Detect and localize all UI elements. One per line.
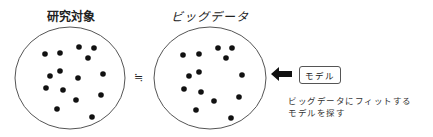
caption: ビッグデータにフィットする モデルを探す — [288, 95, 412, 119]
approximately-equal-symbol: ≒ — [134, 71, 143, 84]
arrow-left-icon — [271, 67, 292, 81]
data-point — [180, 52, 186, 58]
data-point — [198, 89, 204, 95]
data-point — [91, 45, 97, 51]
data-point — [60, 87, 66, 93]
research-target-circle — [15, 27, 125, 129]
data-point — [57, 50, 63, 56]
data-point — [215, 45, 221, 51]
data-point — [85, 55, 91, 61]
data-point — [43, 85, 49, 91]
data-point — [186, 73, 192, 79]
data-point — [223, 55, 229, 61]
data-point — [181, 86, 187, 92]
data-point — [76, 44, 82, 50]
data-point — [193, 107, 199, 113]
data-point — [75, 75, 81, 81]
data-point — [73, 97, 79, 103]
caption-line-2: モデルを探す — [288, 107, 412, 119]
data-point — [229, 45, 235, 51]
model-label: モデル — [305, 69, 335, 81]
data-point — [89, 114, 95, 120]
data-point — [228, 115, 234, 121]
data-point — [54, 106, 60, 112]
data-point — [236, 94, 242, 100]
research-target-dots — [42, 44, 106, 120]
model-box: モデル — [299, 66, 341, 84]
data-point — [239, 72, 245, 78]
data-point — [57, 68, 63, 74]
data-point — [100, 71, 106, 77]
caption-line-1: ビッグデータにフィットする — [288, 95, 412, 107]
data-point — [47, 73, 53, 79]
data-point — [196, 69, 202, 75]
data-point — [196, 51, 202, 57]
data-point — [98, 92, 104, 98]
big-data-dots — [180, 45, 245, 121]
data-point — [42, 51, 48, 57]
data-point — [211, 98, 217, 104]
big-data-circle — [154, 27, 266, 129]
